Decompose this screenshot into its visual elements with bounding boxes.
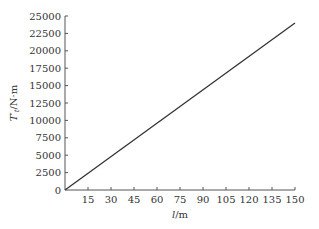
y-tick-label: 10000 [29, 115, 61, 126]
y-axis-label: T′t/N·m [8, 84, 21, 121]
y-tick-label: 15000 [29, 80, 61, 91]
y-tick-label: 12500 [29, 98, 61, 109]
x-tick-label: 90 [197, 194, 210, 205]
y-tick-label: 22500 [29, 28, 61, 39]
y-tick-label: 0 [55, 185, 61, 196]
x-tick-label: 135 [262, 194, 281, 205]
x-tick-label: 105 [216, 194, 235, 205]
y-tick-label: 5000 [36, 150, 61, 161]
chart: 0250050007500100001250015000175002000022… [0, 0, 319, 229]
y-tick-label: 17500 [29, 63, 61, 74]
y-tick-label: 2500 [36, 167, 61, 178]
y-tick-label: 25000 [29, 11, 61, 22]
x-tick-label: 45 [128, 194, 141, 205]
x-tick-label: 30 [105, 194, 118, 205]
x-tick-label: 120 [239, 194, 258, 205]
y-tick-label: 7500 [36, 132, 61, 143]
y-axis-ticks: 0250050007500100001250015000175002000022… [29, 11, 68, 196]
series-line [65, 23, 295, 190]
x-tick-label: 15 [82, 194, 95, 205]
x-axis-label-unit: /m [175, 209, 188, 220]
x-tick-label: 150 [285, 194, 304, 205]
x-tick-label: 60 [151, 194, 164, 205]
x-tick-label: 75 [174, 194, 187, 205]
y-tick-label: 20000 [29, 45, 61, 56]
y-axis-label-unit: /N·m [8, 84, 19, 109]
x-axis-label: l/m [172, 209, 189, 220]
series-group [65, 23, 295, 190]
